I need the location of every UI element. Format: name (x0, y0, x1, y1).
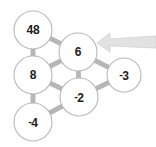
edge-6-minus3 (94, 60, 110, 68)
puzzle-figure: 4868-3-2-4 (0, 0, 156, 147)
node-6-circle[interactable] (59, 33, 97, 71)
arrow-group (97, 33, 156, 52)
node-minus-2-circle[interactable] (60, 78, 98, 116)
node-48-circle[interactable] (14, 11, 52, 49)
edge-minus4-minus2 (48, 105, 63, 113)
lattice-graph (0, 0, 156, 147)
node-minus-4-circle[interactable] (14, 103, 52, 141)
edge-48-6 (49, 38, 63, 45)
edge-8-6 (49, 60, 63, 67)
edge-8-minus2 (49, 83, 63, 90)
node-minus-3-circle[interactable] (107, 58, 141, 92)
pointer-arrow (97, 33, 156, 52)
node-8-circle[interactable] (14, 56, 52, 94)
